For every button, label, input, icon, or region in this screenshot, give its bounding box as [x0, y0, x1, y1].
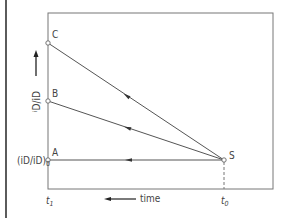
- time-label: time: [140, 193, 161, 204]
- plot-frame: [48, 13, 273, 189]
- arrowhead-A-icon: [125, 158, 132, 162]
- t1-label: t1: [46, 195, 54, 208]
- line-S-to-B: [48, 101, 224, 160]
- label-C: C: [52, 29, 58, 40]
- label-S: S: [229, 150, 235, 161]
- point-C: [46, 41, 50, 45]
- point-B: [46, 99, 50, 103]
- y-axis-label: iD/iD: [31, 91, 42, 112]
- svg-text:iD/iD: iD/iD: [31, 91, 42, 112]
- t0-label: t0: [221, 195, 229, 208]
- diagram-canvas: C B A S iD/iD (iD/iD)0 t1 t0 time: [0, 0, 287, 218]
- a-value-label: (iD/iD)0: [17, 155, 50, 168]
- label-A: A: [52, 147, 59, 158]
- y-axis-arrow-up-icon: [34, 50, 39, 57]
- point-S: [222, 158, 226, 162]
- label-B: B: [52, 88, 58, 99]
- line-S-to-C: [48, 43, 224, 160]
- time-arrow-left-icon: [104, 197, 111, 201]
- arrowhead-B-icon: [124, 125, 132, 131]
